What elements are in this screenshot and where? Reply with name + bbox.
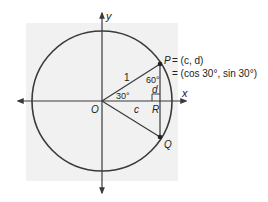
point-q-label: Q (164, 139, 172, 150)
point-p (158, 62, 163, 67)
point-p-label: P (164, 55, 171, 66)
origin-label: O (91, 104, 99, 115)
radius-label: 1 (124, 72, 130, 83)
x-axis-label: x (181, 87, 188, 99)
unit-circle-diagram: y x O P Q R = (c, d) = (cos 30°, sin 30°… (0, 0, 268, 202)
side-c-label: c (134, 104, 139, 115)
point-r-label: R (152, 104, 159, 115)
equation-line-2: = (cos 30°, sin 30°) (172, 68, 257, 79)
point-q (158, 135, 163, 140)
equation-line-1: = (c, d) (172, 55, 203, 66)
angle-origin-label: 30° (116, 91, 130, 101)
y-axis-label: y (105, 10, 113, 22)
side-d-label: d (152, 84, 158, 95)
